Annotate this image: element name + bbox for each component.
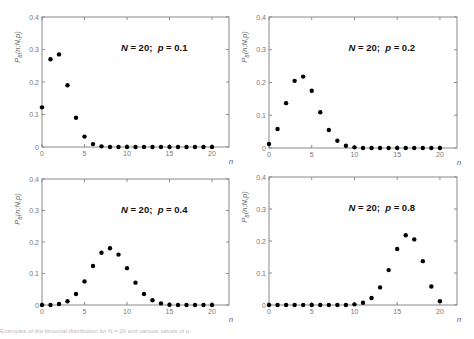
y-tick-label: 0.3 <box>29 207 39 214</box>
data-point <box>82 134 86 138</box>
data-point <box>57 52 61 56</box>
data-point <box>159 145 163 149</box>
data-point <box>386 146 390 150</box>
data-point <box>335 303 339 307</box>
figure-caption: Examples of the binomial distribution fo… <box>0 328 474 339</box>
y-tick-label: 0 <box>262 302 266 309</box>
data-point <box>344 144 348 148</box>
data-point <box>159 301 163 305</box>
plot-frame <box>42 179 229 305</box>
x-tick-label: 5 <box>83 150 87 157</box>
data-point <box>438 299 442 303</box>
x-tick-label: 0 <box>40 308 44 315</box>
data-point <box>292 303 296 307</box>
y-tick-label: 0.4 <box>29 176 39 183</box>
data-point <box>361 146 365 150</box>
panel-p-0-8: 00.10.20.30.405101520nPB(n;N,p)N = 20; p… <box>240 174 462 325</box>
data-point <box>193 303 197 307</box>
data-point <box>40 303 44 307</box>
data-point <box>184 303 188 307</box>
y-tick-label: 0.2 <box>256 79 266 86</box>
data-point <box>108 246 112 250</box>
data-point <box>201 303 205 307</box>
x-tick-label: 0 <box>40 150 44 157</box>
x-tick-label: 15 <box>393 151 401 158</box>
x-tick-label: 20 <box>436 308 444 315</box>
x-axis-label: n <box>457 158 462 167</box>
data-point <box>74 292 78 296</box>
y-tick-label: 0.2 <box>29 239 39 246</box>
data-point <box>301 303 305 307</box>
data-point <box>91 142 95 146</box>
y-tick-label: 0.3 <box>29 46 39 53</box>
y-axis-label: PB(n;N,p) <box>13 193 23 225</box>
y-tick-label: 0.2 <box>256 238 266 245</box>
data-point <box>74 116 78 120</box>
data-point <box>344 303 348 307</box>
data-point <box>116 252 120 256</box>
data-point <box>438 146 442 150</box>
data-point <box>318 303 322 307</box>
data-point <box>335 139 339 143</box>
y-tick-label: 0.2 <box>29 79 39 86</box>
data-point <box>275 303 279 307</box>
data-point <box>267 303 271 307</box>
x-tick-label: 10 <box>351 151 359 158</box>
panel-p-0-2: 00.10.20.30.405101520nPB(n;N,p)N = 20; p… <box>240 14 462 168</box>
x-axis-label: n <box>457 315 462 324</box>
data-point <box>201 145 205 149</box>
data-point <box>108 145 112 149</box>
y-tick-label: 0 <box>35 302 39 309</box>
data-point <box>150 145 154 149</box>
data-point <box>150 298 154 302</box>
data-point <box>395 247 399 251</box>
data-point <box>133 280 137 284</box>
y-axis-label: PB(n;N,p) <box>240 31 250 63</box>
x-tick-label: 15 <box>166 308 174 315</box>
data-point <box>369 146 373 150</box>
data-point <box>429 146 433 150</box>
y-tick-label: 0.4 <box>29 14 39 21</box>
data-point <box>292 79 296 83</box>
data-point <box>318 110 322 114</box>
y-axis-label: PB(n;N,p) <box>13 31 23 63</box>
data-point <box>57 302 61 306</box>
data-point <box>91 264 95 268</box>
y-tick-label: 0 <box>262 145 266 152</box>
data-points <box>40 52 214 149</box>
data-point <box>386 268 390 272</box>
figure: 00.10.20.30.405101520nPB(n;N,p)N = 20; p… <box>0 0 474 339</box>
data-point <box>142 145 146 149</box>
data-point <box>404 146 408 150</box>
data-point <box>167 302 171 306</box>
data-points <box>267 233 442 307</box>
y-axis-label: PB(n;N,p) <box>240 191 250 223</box>
y-tick-label: 0.4 <box>256 14 266 21</box>
data-point <box>210 145 214 149</box>
data-point <box>378 146 382 150</box>
data-point <box>378 285 382 289</box>
data-point <box>429 284 433 288</box>
data-point <box>284 101 288 105</box>
data-point <box>125 145 129 149</box>
x-tick-label: 0 <box>267 151 271 158</box>
data-point <box>361 301 365 305</box>
plot-frame <box>42 17 229 147</box>
data-point <box>176 145 180 149</box>
panel-title: N = 20; p = 0.1 <box>121 42 188 53</box>
data-point <box>327 303 331 307</box>
data-point <box>421 146 425 150</box>
data-point <box>327 128 331 132</box>
x-tick-label: 15 <box>166 150 174 157</box>
data-point <box>142 292 146 296</box>
data-point <box>176 303 180 307</box>
data-point <box>65 299 69 303</box>
data-point <box>310 303 314 307</box>
x-tick-label: 15 <box>393 308 401 315</box>
data-point <box>352 145 356 149</box>
y-tick-label: 0.1 <box>29 111 39 118</box>
y-tick-label: 0.1 <box>256 270 266 277</box>
x-axis-label: n <box>229 315 234 324</box>
panel-title: N = 20; p = 0.4 <box>121 204 188 215</box>
y-tick-label: 0.3 <box>256 206 266 213</box>
